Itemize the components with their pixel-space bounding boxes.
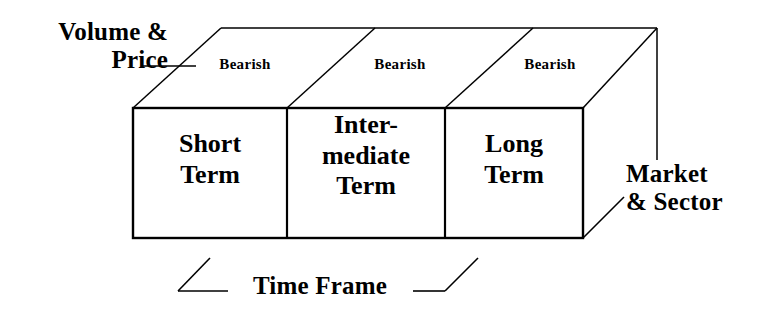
front-face-cell-long-term: Long Term — [445, 129, 583, 190]
leader-line-time-frame-right-diagonal — [445, 258, 478, 291]
callout-market-and-sector: Market & Sector — [626, 160, 776, 216]
top-face-label-long-term-bearish: Bearish — [490, 56, 610, 73]
top-face-label-short-term-bearish: Bearish — [185, 56, 305, 73]
callout-time-frame: Time Frame — [230, 272, 410, 300]
front-face-cell-short-term: Short Term — [133, 129, 287, 190]
leader-line-market-sector — [583, 197, 624, 238]
front-face-cell-intermediate-term: Inter- mediate Term — [287, 110, 445, 202]
leader-line-time-frame-left-diagonal — [178, 258, 210, 291]
three-axis-box-diagram: Volume & Price Market & Sector Time Fram… — [0, 0, 778, 324]
top-face-label-intermediate-term-bearish: Bearish — [340, 56, 460, 73]
callout-volume-and-price: Volume & Price — [36, 18, 168, 74]
